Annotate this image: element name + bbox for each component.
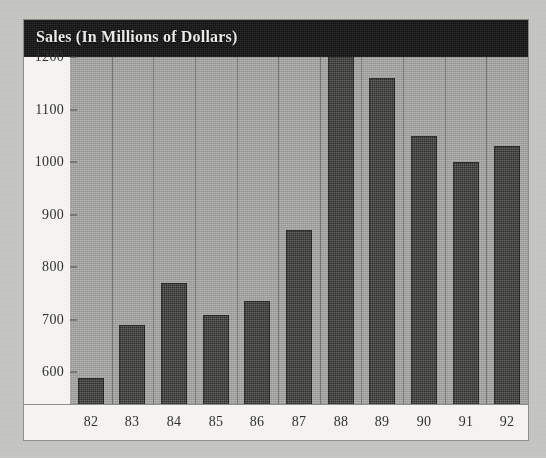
x-axis-tick-label: 85 bbox=[209, 414, 224, 430]
plot-area bbox=[70, 57, 528, 425]
vertical-gridline bbox=[320, 57, 321, 425]
y-axis-tick-mark bbox=[70, 267, 77, 268]
x-axis-tick-label: 84 bbox=[167, 414, 182, 430]
x-axis-tick-label: 87 bbox=[292, 414, 307, 430]
y-axis-tick-label: 1200 bbox=[35, 49, 64, 65]
y-axis-tick-mark bbox=[70, 214, 77, 215]
x-axis-tick-label: 82 bbox=[84, 414, 99, 430]
x-axis-tick-label: 92 bbox=[500, 414, 515, 430]
y-axis-tick-mark bbox=[70, 162, 77, 163]
vertical-gridline bbox=[278, 57, 279, 425]
bar bbox=[411, 136, 437, 425]
bar bbox=[328, 57, 354, 425]
vertical-gridline bbox=[445, 57, 446, 425]
bar bbox=[369, 78, 395, 425]
y-axis-tick-mark bbox=[70, 372, 77, 373]
bar bbox=[494, 146, 520, 425]
scanned-page-background: Sales (In Millions of Dollars) 500600700… bbox=[0, 0, 546, 458]
vertical-gridline bbox=[486, 57, 487, 425]
x-axis-tick-label: 89 bbox=[375, 414, 390, 430]
y-axis-tick-label: 800 bbox=[42, 259, 64, 275]
vertical-gridline bbox=[195, 57, 196, 425]
y-axis-label-strip: 500600700800900100011001200 bbox=[24, 57, 70, 440]
x-axis-tick-label: 83 bbox=[125, 414, 140, 430]
chart-title-rest: (In Millions of Dollars) bbox=[72, 28, 238, 45]
y-axis-tick-label: 700 bbox=[42, 312, 64, 328]
y-axis-tick-label: 900 bbox=[42, 207, 64, 223]
x-axis-tick-label: 86 bbox=[250, 414, 265, 430]
vertical-gridline bbox=[403, 57, 404, 425]
x-axis-tick-label: 91 bbox=[459, 414, 474, 430]
x-axis-label-strip: 8283848586878889909192 bbox=[24, 405, 528, 440]
x-axis-tick-label: 88 bbox=[334, 414, 349, 430]
y-axis-tick-mark bbox=[70, 319, 77, 320]
chart-title-bar: Sales (In Millions of Dollars) bbox=[24, 20, 528, 57]
x-axis-tick-label: 90 bbox=[417, 414, 432, 430]
sales-bar-chart-figure: Sales (In Millions of Dollars) 500600700… bbox=[24, 20, 528, 440]
chart-title: Sales (In Millions of Dollars) bbox=[36, 28, 238, 46]
y-axis-tick-label: 1000 bbox=[35, 154, 64, 170]
vertical-gridline bbox=[153, 57, 154, 425]
y-axis-tick-mark bbox=[70, 57, 77, 58]
vertical-gridline bbox=[112, 57, 113, 425]
y-axis-tick-label: 600 bbox=[42, 364, 64, 380]
chart-title-bold: Sales bbox=[36, 28, 72, 45]
vertical-gridline bbox=[237, 57, 238, 425]
bar bbox=[161, 283, 187, 425]
bar bbox=[453, 162, 479, 425]
plot-region: 500600700800900100011001200 bbox=[24, 57, 528, 440]
vertical-gridline bbox=[361, 57, 362, 425]
bar bbox=[286, 230, 312, 425]
y-axis-tick-label: 1100 bbox=[35, 102, 64, 118]
y-axis-tick-mark bbox=[70, 109, 77, 110]
